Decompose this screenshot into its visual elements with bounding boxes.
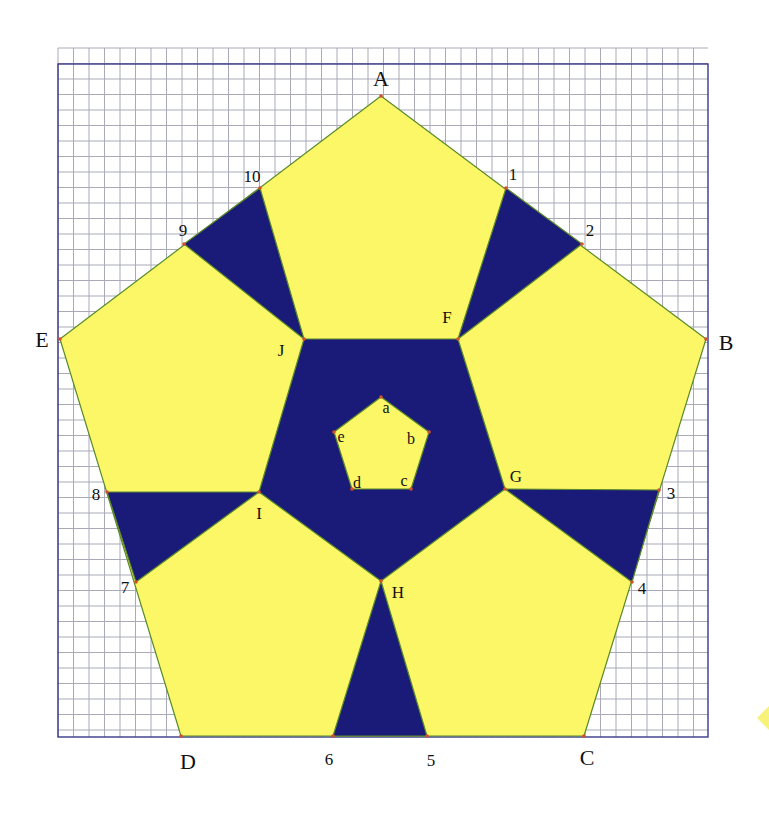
vertex-label-F: F [442, 308, 451, 327]
vertex-dot-I [257, 490, 261, 494]
vertex-label-8: 8 [92, 485, 101, 504]
vertex-label-a: a [382, 399, 389, 416]
vertex-label-3: 3 [667, 484, 676, 503]
vertex-dot-3 [657, 488, 661, 492]
vertex-label-6: 6 [325, 750, 334, 769]
vertex-dot-7 [134, 580, 138, 584]
vertex-label-1: 1 [509, 165, 518, 184]
vertex-dot-E [58, 337, 62, 341]
vertex-dot-D [179, 734, 183, 738]
vertex-dot-2 [580, 242, 584, 246]
vertex-dot-6 [331, 734, 335, 738]
vertex-label-7: 7 [121, 578, 130, 597]
vertex-label-E: E [35, 327, 48, 352]
vertex-dot-G [503, 487, 507, 491]
pentagon-dissection-diagram: ABCDE12345678910FGHIJabcde [0, 0, 769, 813]
vertex-label-J: J [278, 341, 285, 360]
vertex-dot-4 [630, 580, 634, 584]
vertex-label-I: I [256, 504, 262, 523]
vertex-dot-c [409, 487, 413, 491]
vertex-dot-A [379, 94, 383, 98]
pentagon-shapes [60, 96, 706, 736]
vertex-dot-b [427, 430, 431, 434]
vertex-label-9: 9 [179, 221, 188, 240]
side-marker-shape [757, 706, 769, 730]
vertex-dot-H [379, 579, 383, 583]
vertex-label-b: b [407, 430, 415, 447]
vertex-dot-1 [504, 186, 508, 190]
vertex-label-d: d [353, 474, 361, 491]
vertex-label-H: H [392, 583, 404, 602]
vertex-dot-B [704, 337, 708, 341]
vertex-label-4: 4 [638, 579, 647, 598]
vertex-label-C: C [580, 745, 595, 770]
vertex-label-2: 2 [586, 221, 595, 240]
vertex-dot-10 [258, 186, 262, 190]
vertex-label-5: 5 [427, 751, 436, 770]
vertex-label-c: c [400, 472, 407, 489]
vertex-label-A: A [373, 66, 389, 91]
vertex-label-D: D [180, 749, 196, 774]
vertex-label-10: 10 [244, 167, 261, 186]
vertex-dot-e [332, 430, 336, 434]
vertex-dot-9 [182, 242, 186, 246]
vertex-dot-J [302, 337, 306, 341]
vertex-dot-8 [105, 490, 109, 494]
vertex-dot-C [582, 734, 586, 738]
vertex-label-e: e [337, 428, 344, 445]
vertex-dot-F [456, 337, 460, 341]
vertex-label-G: G [510, 467, 522, 486]
vertex-label-B: B [719, 330, 734, 355]
vertex-dot-5 [425, 734, 429, 738]
